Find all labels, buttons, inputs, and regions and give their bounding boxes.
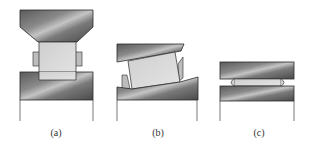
panel-a (20, 10, 93, 121)
bulge-left-c (231, 79, 234, 86)
bulge-left-b (122, 75, 130, 89)
panel-label-c: (c) (244, 127, 274, 138)
panel-b (117, 44, 198, 121)
bulge-right-c (281, 79, 284, 86)
panel-c (220, 62, 294, 121)
panel-label-a: (a) (41, 127, 71, 138)
upper-die-a (20, 10, 93, 42)
upper-plate-c (220, 62, 294, 79)
lower-plate-c (220, 86, 294, 101)
disc-c (234, 79, 281, 86)
panel-label-b: (b) (143, 127, 173, 138)
